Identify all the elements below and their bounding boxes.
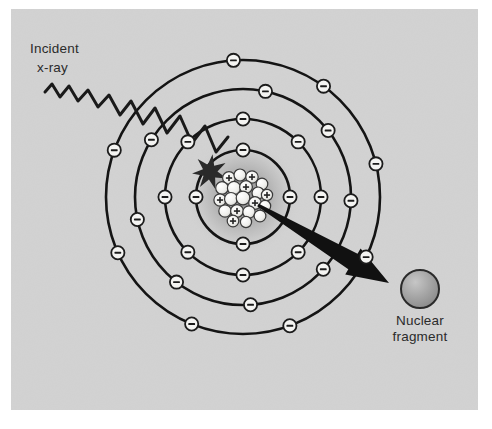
neutron-12 [236,191,250,205]
electron-minus-sign-icon [240,149,247,151]
electron-3-6 [170,276,183,289]
electron-2-1 [236,112,249,125]
proton-plus-icon-v [254,200,256,206]
electron-minus-sign-icon [320,268,327,270]
electron-2-6 [181,246,194,259]
electron-1-4 [189,190,202,203]
nucleon-body [234,169,246,181]
electron-3-1 [259,85,272,98]
electron-minus-sign-icon [240,274,247,276]
electron-minus-sign-icon [193,196,200,198]
electron-minus-sign-icon [134,219,141,221]
electron-minus-sign-icon [240,243,247,245]
electron-minus-sign-icon [111,149,118,151]
electron-2-5 [236,268,249,281]
neutron-11 [225,193,238,206]
electron-minus-sign-icon [184,141,191,143]
figure-root: Incident x-ray Nuclear fragment [0,0,492,429]
electron-minus-sign-icon [325,130,332,132]
electron-4-7 [111,246,124,259]
electron-minus-sign-icon [318,196,325,198]
electron-minus-sign-icon [320,85,327,87]
electron-minus-sign-icon [114,252,121,254]
proton-plus-icon-v [266,192,268,198]
incident-xray-label-line2: x-ray [37,60,68,75]
electron-1-2 [283,190,296,203]
electron-2-2 [292,135,305,148]
nucleon-body [216,182,229,195]
nucleon-body [219,205,231,217]
incident-xray-label-line1: Incident [30,41,79,56]
nucleon-body [240,216,251,227]
electron-4-2 [317,80,330,93]
neutron-15 [219,205,231,217]
proton-plus-icon-v [245,184,247,190]
proton-plus-icon-v [251,174,253,180]
electron-4-8 [108,144,121,157]
electron-3-4 [317,263,330,276]
proton-plus-icon-v [232,218,234,224]
nucleon-body [225,193,238,206]
electron-minus-sign-icon [348,200,355,202]
proton-9 [261,189,272,200]
nucleon-body [254,210,266,222]
proton-19 [227,215,239,227]
electron-minus-sign-icon [230,59,237,61]
electron-minus-sign-icon [148,139,155,141]
neutron-5 [216,182,229,195]
neutron-20 [240,216,251,227]
electron-4-5 [283,319,296,332]
nuclear-fragment-label-line2: fragment [393,329,448,344]
neutron-2 [234,169,246,181]
electron-4-4 [360,250,373,263]
electron-4-1 [227,54,240,67]
proton-plus-icon-v [219,197,221,203]
electron-3-2 [322,124,335,137]
electron-3-8 [145,133,158,146]
electron-minus-sign-icon [373,163,380,165]
electron-minus-sign-icon [184,251,191,253]
electron-1-3 [236,237,249,250]
proton-plus-icon-v [228,175,230,181]
electron-minus-sign-icon [162,196,169,198]
electron-4-3 [369,157,382,170]
electron-minus-sign-icon [262,90,269,92]
electron-2-3 [314,190,327,203]
electron-minus-sign-icon [295,141,302,143]
neutron-18 [254,210,266,222]
electron-minus-sign-icon [363,256,370,258]
electron-3-7 [131,213,144,226]
electron-minus-sign-icon [247,304,254,306]
nuclear-fragment-label-line1: Nuclear [396,313,444,328]
electron-2-7 [158,190,171,203]
electron-minus-sign-icon [188,323,195,325]
nucleon-body [236,191,250,205]
electron-4-6 [185,317,198,330]
nuclear-fragment-label: Nuclear fragment [393,313,448,344]
electron-2-4 [292,246,305,259]
proton-plus-icon-v [236,208,238,214]
electron-minus-sign-icon [295,251,302,253]
electron-3-3 [344,194,357,207]
nuclear-fragment-sphere [401,270,439,308]
electron-minus-sign-icon [173,281,180,283]
electron-minus-sign-icon [287,196,294,198]
atom-xray-diagram: Incident x-ray Nuclear fragment [0,0,492,429]
electron-3-5 [244,298,257,311]
electron-minus-sign-icon [240,118,247,120]
electron-2-8 [181,135,194,148]
electron-minus-sign-icon [286,325,293,327]
electron-1-1 [236,143,249,156]
